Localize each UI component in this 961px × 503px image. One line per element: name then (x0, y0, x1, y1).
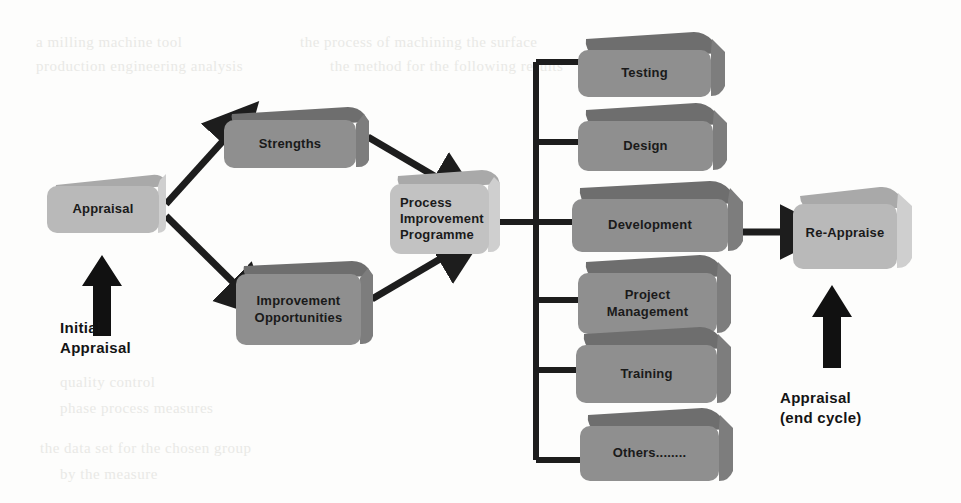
ghost-text: a milling machine tool (36, 34, 182, 51)
node-re-appraise[interactable] (793, 187, 913, 270)
caption-initial-appraisal: Initial Appraisal (60, 318, 131, 357)
tree-connector (500, 62, 582, 460)
node-testing[interactable] (578, 32, 726, 98)
ghost-text: production engineering analysis (36, 58, 243, 75)
arrow-end-cycle-appraisal (812, 285, 852, 368)
arrow-appraisal-to-strengths (166, 131, 232, 204)
ghost-text: quality control (60, 374, 155, 391)
node-appraisal[interactable] (47, 174, 167, 234)
node-training[interactable] (576, 327, 732, 404)
ghost-text: the data set for the chosen group (40, 440, 251, 457)
ghost-text: by the measure (60, 466, 158, 483)
node-others[interactable] (580, 408, 734, 482)
arrow-improvement-to-programme (372, 252, 452, 299)
ghost-text: the process of machining the surface (300, 34, 538, 51)
node-improvement-opportunities[interactable] (236, 261, 374, 346)
arrow-appraisal-to-improvement (166, 216, 243, 292)
ghost-text: phase process measures (60, 400, 213, 417)
ghost-text: the method for the following results (330, 58, 563, 75)
node-development[interactable] (572, 181, 744, 253)
node-project-management[interactable] (578, 255, 732, 335)
node-design[interactable] (578, 103, 728, 172)
caption-end-cycle-appraisal: Appraisal (end cycle) (780, 388, 862, 427)
node-strengths[interactable] (224, 107, 370, 169)
diagram-canvas: a milling machine toolthe process of mac… (0, 0, 961, 503)
node-process-improvement-programme[interactable] (390, 170, 501, 255)
